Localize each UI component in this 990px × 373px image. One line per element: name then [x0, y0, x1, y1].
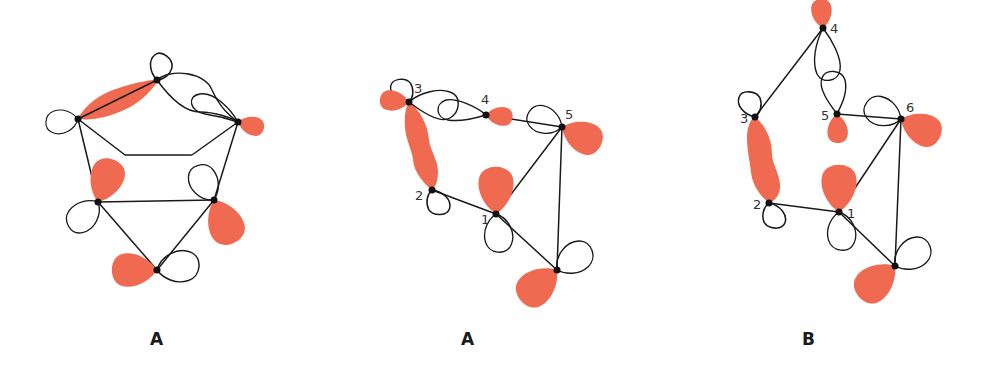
- atom-number-label: 4: [830, 21, 838, 36]
- atom-node: [820, 25, 827, 32]
- orbital-overlap-lobe: [405, 102, 438, 190]
- atom-number-label: 5: [565, 107, 573, 122]
- atom-number-label: 1: [847, 206, 855, 221]
- atom-node: [483, 112, 490, 119]
- atom-node: [235, 119, 242, 126]
- atom-number-label: 6: [906, 100, 914, 115]
- atom-number-label: 2: [415, 188, 423, 203]
- orbital-lobe-open: [46, 110, 78, 134]
- orbital-lobe-filled: [82, 154, 129, 208]
- atom-node: [766, 200, 773, 207]
- bond-line: [98, 200, 214, 202]
- orbital-lobe-open: [522, 100, 567, 141]
- bond-line: [895, 119, 901, 266]
- panel-3-structure: 4 3 5 6 2 1: [738, 0, 947, 310]
- orbital-lobe-filled: [236, 113, 267, 138]
- bond-line: [192, 122, 238, 155]
- atom-node: [834, 111, 841, 118]
- orbital-lobe-filled: [478, 167, 513, 214]
- atom-node: [752, 114, 759, 121]
- panel-label-3: B: [802, 329, 815, 349]
- orbital-lobe-filled: [847, 253, 906, 310]
- panel-label-1: A: [150, 329, 163, 349]
- orbital-lobe-filled: [198, 193, 250, 251]
- orbital-lobe-filled: [827, 114, 848, 144]
- bond-line: [557, 127, 562, 270]
- atom-node: [211, 197, 218, 204]
- orbital-lobe-filled: [894, 105, 946, 152]
- bond-line: [157, 200, 214, 270]
- orbital-lobe-filled: [821, 165, 856, 212]
- atom-number-label: 1: [481, 212, 489, 227]
- orbital-lobe-filled: [485, 106, 513, 127]
- bond-line: [755, 28, 823, 117]
- atom-node: [892, 263, 899, 270]
- orbital-lobe-filled: [555, 113, 607, 160]
- atom-node: [154, 77, 161, 84]
- orbital-lobe-open: [425, 187, 452, 216]
- orbital-lobe-open: [184, 161, 224, 206]
- orbital-overlap-lobe: [747, 117, 780, 203]
- orbital-lobe-filled: [379, 89, 410, 112]
- atom-number-label: 2: [753, 197, 761, 212]
- atom-node: [406, 99, 413, 106]
- atom-node: [898, 116, 905, 123]
- atom-node: [559, 124, 566, 131]
- panel-2-structure: 3 4 5 2 1: [379, 77, 608, 314]
- orbital-lobe-filled: [509, 257, 568, 314]
- bond-line: [837, 114, 901, 119]
- atom-node: [75, 116, 82, 123]
- orbital-lobe-open: [438, 100, 486, 121]
- atom-node: [154, 267, 161, 274]
- panel-1-structure: [46, 50, 266, 287]
- atom-number-label: 5: [821, 108, 829, 123]
- atom-number-label: 4: [481, 92, 489, 107]
- orbital-lobe-open: [157, 73, 238, 122]
- orbital-diagram-figure: 3 4 5 2 1: [0, 0, 990, 373]
- atom-node: [493, 211, 500, 218]
- atom-number-label: 3: [740, 111, 748, 126]
- atom-node: [95, 199, 102, 206]
- orbital-lobe-open: [859, 91, 906, 135]
- bond-line: [78, 80, 157, 119]
- orbital-lobe-filled: [112, 253, 157, 287]
- orbital-lobe-open: [157, 251, 199, 282]
- atom-node: [836, 209, 843, 216]
- bond-line: [496, 214, 557, 270]
- panel-label-2: A: [461, 329, 474, 349]
- orbital-lobe-open: [157, 80, 238, 122]
- atom-node: [429, 187, 436, 194]
- atom-number-label: 3: [414, 81, 422, 96]
- atom-node: [554, 267, 561, 274]
- orbital-lobe-open: [762, 202, 787, 230]
